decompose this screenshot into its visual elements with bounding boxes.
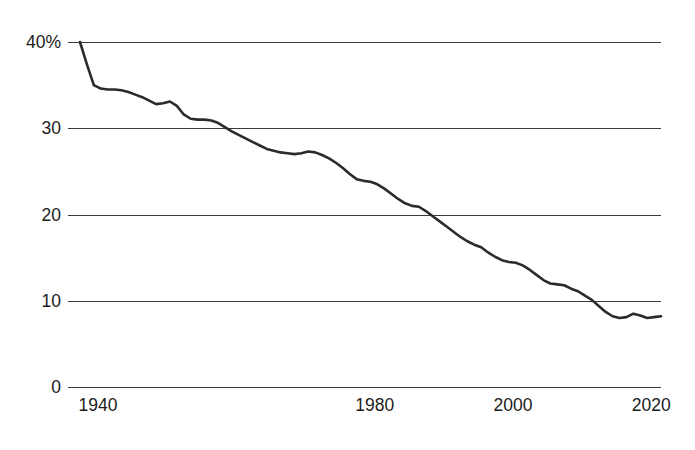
y-tick-label-10: 10 bbox=[42, 291, 62, 311]
gridlines-group bbox=[68, 43, 661, 388]
x-axis-tick-labels: 1940198020002020 bbox=[79, 395, 672, 415]
x-tick-label-2000: 2000 bbox=[494, 395, 533, 415]
x-tick-label-2020: 2020 bbox=[632, 395, 671, 415]
series-line-share bbox=[80, 42, 661, 318]
x-tick-label-1980: 1980 bbox=[355, 395, 394, 415]
chart-container: 010203040% 1940198020002020 bbox=[0, 0, 695, 450]
x-tick-label-1940: 1940 bbox=[79, 395, 118, 415]
y-tick-label-30: 30 bbox=[42, 118, 62, 138]
y-tick-label-40: 40% bbox=[26, 32, 61, 52]
line-chart: 010203040% 1940198020002020 bbox=[0, 0, 695, 450]
y-tick-label-0: 0 bbox=[51, 377, 61, 397]
y-tick-label-20: 20 bbox=[42, 205, 62, 225]
series-group bbox=[80, 42, 661, 318]
y-axis-tick-labels: 010203040% bbox=[26, 32, 61, 397]
